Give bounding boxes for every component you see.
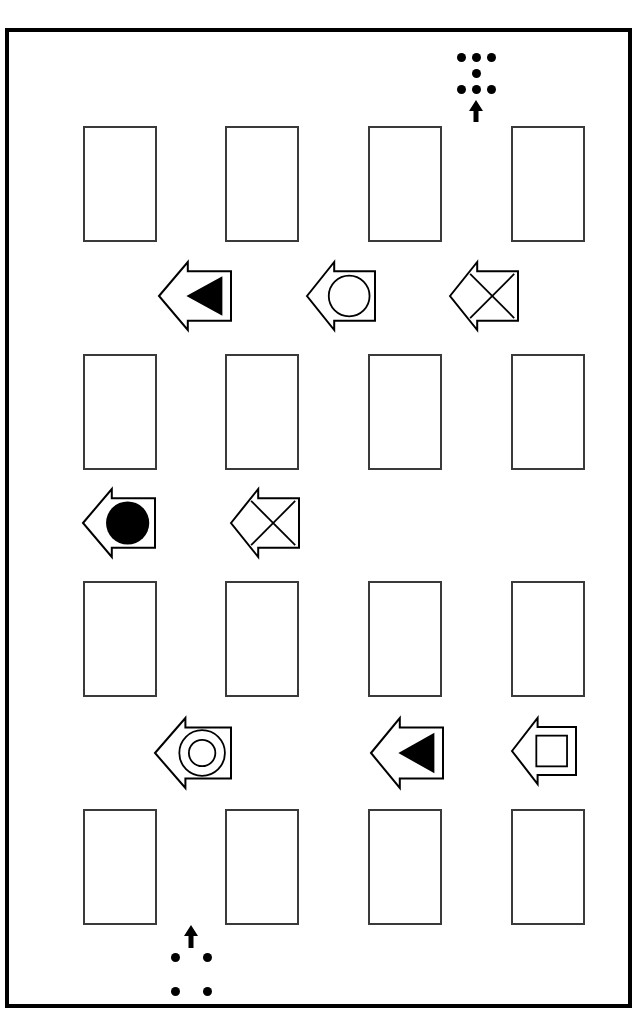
top-marker-dot [487,85,496,94]
top-marker-dot [472,53,481,62]
answer-box[interactable] [83,354,157,470]
answer-box[interactable] [511,581,585,697]
answer-box[interactable] [511,126,585,242]
left-arrow-with-concentric-circles[interactable] [155,718,231,788]
left-arrow-with-cross-x[interactable] [450,262,518,330]
answer-box[interactable] [83,581,157,697]
top-marker-dot [457,85,466,94]
bottom-marker-dot [203,987,212,996]
left-arrow-with-circle-outline[interactable] [307,262,375,330]
left-arrow-with-triangle-left-filled[interactable] [159,262,231,330]
top-marker-dot [457,53,466,62]
left-arrow-with-cross-x[interactable] [231,489,299,557]
answer-box[interactable] [511,809,585,925]
bottom-marker-up-arrow-icon [181,925,201,948]
left-arrow-icon [307,262,375,330]
top-marker-dot [472,85,481,94]
answer-box[interactable] [511,354,585,470]
answer-box[interactable] [368,126,442,242]
top-marker-up-arrow-icon [466,100,486,122]
answer-box[interactable] [368,581,442,697]
answer-box[interactable] [368,354,442,470]
bottom-marker-dot [171,953,180,962]
worksheet-page [0,0,640,1021]
bottom-marker-dot [203,953,212,962]
circle-filled-icon [106,501,149,544]
answer-box[interactable] [83,126,157,242]
answer-box[interactable] [225,581,299,697]
answer-box[interactable] [225,354,299,470]
left-arrow-with-circle-filled[interactable] [83,489,155,557]
left-arrow-with-triangle-left-filled[interactable] [371,718,443,788]
answer-box[interactable] [368,809,442,925]
answer-box[interactable] [225,126,299,242]
top-marker-dot [487,53,496,62]
top-marker-dot [472,69,481,78]
answer-box[interactable] [83,809,157,925]
left-arrow-icon [231,489,299,557]
left-arrow-with-square-outline[interactable] [512,718,576,784]
bottom-marker-dot [171,987,180,996]
answer-box[interactable] [225,809,299,925]
left-arrow-icon [155,718,231,788]
left-arrow-icon [450,262,518,330]
